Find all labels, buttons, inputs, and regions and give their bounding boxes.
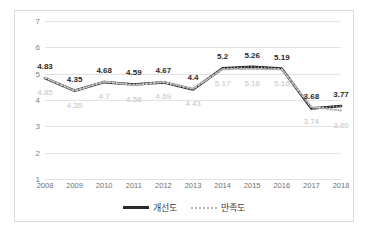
y-axis-tick-label: 2	[36, 148, 40, 157]
x-axis-tick-label: 2018	[333, 181, 350, 190]
x-axis-tick-label: 2008	[37, 181, 54, 190]
y-axis-tick-label: 6	[36, 43, 40, 52]
data-label: 4.83	[37, 62, 53, 71]
x-axis-tick-label: 2015	[244, 181, 261, 190]
dotted-line-marker-icon	[191, 207, 217, 209]
x-axis-tick-label: 2013	[185, 181, 202, 190]
x-axis-tick-label: 2012	[155, 181, 172, 190]
data-label: 4.7	[99, 91, 110, 100]
y-axis-tick-label: 4	[36, 96, 40, 105]
data-label: 4.59	[126, 68, 142, 77]
x-axis-tick-label: 2009	[66, 181, 83, 190]
chart-frame: 1234567 4.834.354.684.594.674.45.25.265.…	[14, 10, 354, 222]
data-label: 4.4	[187, 73, 198, 82]
x-axis-tick-label: 2010	[96, 181, 113, 190]
data-label: 4.69	[156, 91, 172, 100]
legend-label-0: 개선도	[153, 201, 177, 214]
x-axis: 2008200920102011201220132014201520162017…	[45, 181, 341, 195]
data-label: 5.26	[244, 50, 260, 59]
data-label: 3.60	[333, 120, 349, 129]
data-label: 3.68	[304, 92, 320, 101]
legend-item-1[interactable]: 만족도	[191, 201, 245, 214]
data-label: 4.35	[67, 74, 83, 83]
data-label: 3.77	[333, 90, 349, 99]
data-label: 4.67	[156, 66, 172, 75]
legend-item-0[interactable]: 개선도	[123, 201, 177, 214]
data-label: 5.2	[217, 52, 228, 61]
data-label: 5.17	[215, 79, 231, 88]
y-axis-tick-label: 3	[36, 122, 40, 131]
data-label: 5.19	[274, 52, 290, 61]
data-label: 4.43	[185, 98, 201, 107]
gridline: 1	[45, 179, 341, 180]
solid-line-marker-icon	[123, 206, 149, 209]
legend-label-1: 만족도	[221, 201, 245, 214]
data-label: 5.18	[244, 78, 260, 87]
x-axis-tick-label: 2011	[126, 181, 142, 190]
x-axis-tick-label: 2016	[273, 181, 290, 190]
x-axis-tick-label: 2017	[303, 181, 320, 190]
data-label: 4.68	[96, 66, 112, 75]
data-label: 4.35	[67, 100, 83, 109]
chart-legend: 개선도 만족도	[15, 201, 353, 214]
data-label: 4.56	[126, 95, 142, 104]
plot-area: 1234567 4.834.354.684.594.674.45.25.265.…	[45, 21, 341, 179]
x-axis-tick-label: 2014	[214, 181, 231, 190]
data-label: 3.74	[304, 116, 320, 125]
data-label: 4.85	[37, 87, 53, 96]
data-label: 5.16	[274, 79, 290, 88]
y-axis-tick-label: 7	[36, 17, 40, 26]
